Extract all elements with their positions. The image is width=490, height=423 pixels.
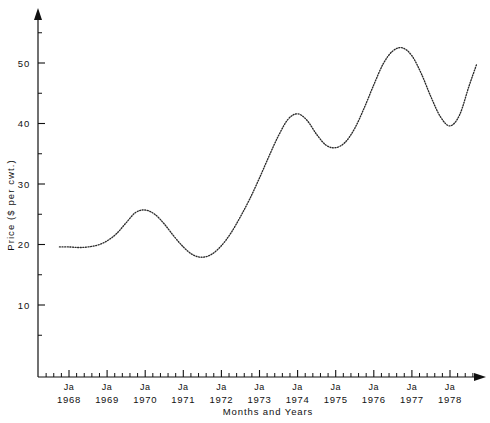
x-tick-month-label: Ja xyxy=(102,382,113,392)
x-tick-month-label: Ja xyxy=(178,382,189,392)
x-tick-year-label: 1970 xyxy=(133,394,157,405)
x-tick-month-label: Ja xyxy=(330,382,341,392)
x-tick-year-label: 1971 xyxy=(171,394,195,405)
x-tick-year-label: 1978 xyxy=(438,394,462,405)
x-tick-month-label: Ja xyxy=(64,382,75,392)
x-tick-year-label: 1972 xyxy=(209,394,233,405)
x-tick-year-label: 1969 xyxy=(95,394,119,405)
y-tick-label: 30 xyxy=(18,179,30,190)
x-tick-year-label: 1968 xyxy=(57,394,81,405)
x-tick-month-label: Ja xyxy=(292,382,303,392)
y-axis-ticks xyxy=(38,33,45,336)
x-axis-ticks xyxy=(46,370,473,377)
x-tick-year-label: 1975 xyxy=(324,394,348,405)
y-tick-label: 40 xyxy=(18,118,30,129)
y-axis-tick-labels: 1020304050 xyxy=(18,58,30,311)
x-tick-year-label: 1973 xyxy=(248,394,272,405)
price-series-line xyxy=(59,48,476,258)
x-tick-month-label: Ja xyxy=(407,382,418,392)
x-tick-month-label: Ja xyxy=(254,382,265,392)
y-axis-title: Price ($ per cwt.) xyxy=(5,159,16,251)
x-tick-year-label: 1976 xyxy=(362,394,386,405)
x-axis-arrow-icon xyxy=(474,373,486,381)
x-tick-month-label: Ja xyxy=(216,382,227,392)
axes-group xyxy=(34,8,486,381)
y-tick-label: 50 xyxy=(18,58,30,69)
x-axis-tick-labels: Ja1968Ja1969Ja1970Ja1971Ja1972Ja1973Ja19… xyxy=(57,382,462,405)
chart-canvas: 1020304050 Ja1968Ja1969Ja1970Ja1971Ja197… xyxy=(0,0,490,423)
x-axis-title: Months and Years xyxy=(223,406,313,417)
y-axis-arrow-icon xyxy=(34,8,42,20)
price-time-series-chart: 1020304050 Ja1968Ja1969Ja1970Ja1971Ja197… xyxy=(0,0,490,423)
x-tick-month-label: Ja xyxy=(369,382,380,392)
x-tick-year-label: 1977 xyxy=(400,394,424,405)
y-tick-label: 20 xyxy=(18,239,30,250)
x-tick-month-label: Ja xyxy=(140,382,151,392)
x-tick-month-label: Ja xyxy=(445,382,456,392)
y-tick-label: 10 xyxy=(18,300,30,311)
x-tick-year-label: 1974 xyxy=(286,394,310,405)
